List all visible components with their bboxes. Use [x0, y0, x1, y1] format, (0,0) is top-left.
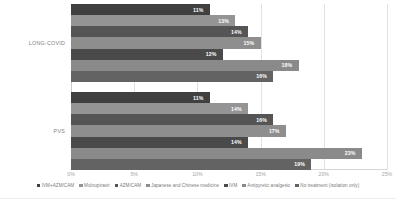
legend-swatch-icon — [79, 184, 82, 187]
legend-label: IVM — [229, 183, 237, 188]
legend-item[interactable]: No treatment (isolation only) — [295, 183, 359, 188]
legend-label: IVM+AZM/CAM — [42, 183, 75, 188]
bar[interactable] — [71, 15, 235, 26]
bottom-divider — [0, 198, 396, 199]
bar-row: 18% — [71, 60, 387, 71]
bar-row: 16% — [71, 71, 387, 82]
bar[interactable] — [71, 159, 311, 170]
legend-item[interactable]: AZM/CAM — [115, 183, 141, 188]
x-axis-tick-label: 25% — [382, 171, 392, 177]
legend-item[interactable]: Japanese and Chinese medicine — [146, 183, 219, 188]
bar-group: 11%13%14%15%12%18%16% — [71, 4, 387, 82]
bar-value-label: 14% — [231, 106, 242, 112]
category-label: PVS — [5, 128, 65, 134]
bar-row: 14% — [71, 137, 387, 148]
bar-value-label: 16% — [256, 117, 267, 123]
bar-value-label: 17% — [269, 128, 280, 134]
bar-value-label: 15% — [244, 40, 255, 46]
bar[interactable] — [71, 60, 299, 71]
bar-row: 15% — [71, 37, 387, 48]
legend-swatch-icon — [146, 184, 149, 187]
legend-item[interactable]: Antipyretic analgesic — [242, 183, 290, 188]
bar-row: 14% — [71, 103, 387, 114]
bar[interactable] — [71, 26, 248, 37]
bar-row: 16% — [71, 114, 387, 125]
bar-value-label: 14% — [231, 29, 242, 35]
bar-row: 14% — [71, 26, 387, 37]
x-axis-tick-label: 10% — [192, 171, 202, 177]
legend-swatch-icon — [37, 184, 40, 187]
bar-value-label: 19% — [294, 161, 305, 167]
bar[interactable] — [71, 37, 261, 48]
legend-label: AZM/CAM — [120, 183, 142, 188]
bar-value-label: 11% — [193, 7, 203, 13]
x-axis-tick-label: 5% — [130, 171, 138, 177]
legend-swatch-icon — [224, 184, 227, 187]
x-axis-ticks: 0%5%10%15%20%25% — [71, 171, 387, 181]
bar[interactable] — [71, 92, 210, 103]
bar-value-label: 13% — [218, 18, 229, 24]
x-axis-tick-label: 0% — [67, 171, 75, 177]
x-axis-tick-label: 15% — [255, 171, 265, 177]
bar[interactable] — [71, 125, 286, 136]
bar-row: 23% — [71, 148, 387, 159]
gridline — [387, 4, 388, 170]
legend-swatch-icon — [115, 184, 118, 187]
bar[interactable] — [71, 4, 210, 15]
legend-item[interactable]: IVM — [224, 183, 237, 188]
chart-legend: IVM+AZM/CAMMolnupiravirAZM/CAMJapanese a… — [0, 183, 396, 188]
category-label: LONG-COVID — [5, 40, 65, 46]
bar[interactable] — [71, 49, 223, 60]
bar-row: 17% — [71, 125, 387, 136]
bar-row: 12% — [71, 49, 387, 60]
bar[interactable] — [71, 103, 248, 114]
bar-value-label: 23% — [345, 150, 356, 156]
x-axis-tick-label: 20% — [319, 171, 329, 177]
legend-label: Molnupiravir — [84, 183, 110, 188]
bar-row: 19% — [71, 159, 387, 170]
bar-chart: 11%13%14%15%12%18%16%11%14%16%17%14%23%1… — [0, 0, 396, 199]
bar[interactable] — [71, 148, 362, 159]
legend-item[interactable]: IVM+AZM/CAM — [37, 183, 74, 188]
bar[interactable] — [71, 71, 273, 82]
legend-label: No treatment (isolation only) — [300, 183, 359, 188]
legend-item[interactable]: Molnupiravir — [79, 183, 110, 188]
bar-value-label: 16% — [256, 73, 267, 79]
legend-label: Antipyretic analgesic — [247, 183, 290, 188]
bar-group: 11%14%16%17%14%23%19% — [71, 92, 387, 170]
legend-swatch-icon — [295, 184, 298, 187]
bar-value-label: 12% — [206, 51, 217, 57]
bar-value-label: 11% — [193, 95, 203, 101]
bar[interactable] — [71, 137, 248, 148]
bar-row: 11% — [71, 92, 387, 103]
plot-area: 11%13%14%15%12%18%16%11%14%16%17%14%23%1… — [71, 4, 387, 170]
bar-value-label: 18% — [282, 62, 293, 68]
bar-row: 13% — [71, 15, 387, 26]
legend-label: Japanese and Chinese medicine — [151, 183, 219, 188]
bar-row: 11% — [71, 4, 387, 15]
bar-value-label: 14% — [231, 139, 242, 145]
bar[interactable] — [71, 114, 273, 125]
legend-swatch-icon — [242, 184, 245, 187]
